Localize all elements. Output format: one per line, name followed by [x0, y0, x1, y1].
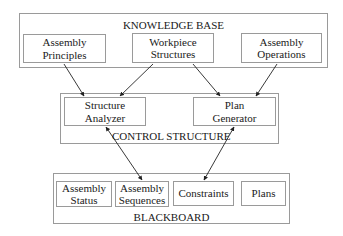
connection-arrows	[0, 0, 343, 236]
arrow-workpiece-to-analyzer	[120, 64, 153, 96]
arrow-generator-constraints	[204, 127, 234, 180]
arrow-operations-to-generator	[256, 64, 277, 96]
arrow-workpiece-to-generator	[193, 64, 220, 96]
arrow-principles-to-analyzer	[64, 64, 84, 96]
arrow-analyzer-sequences	[106, 127, 142, 180]
